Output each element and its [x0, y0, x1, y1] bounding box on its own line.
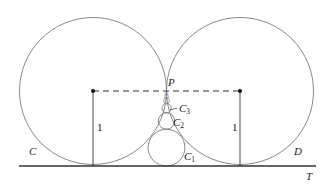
- label-radius-right: 1: [232, 121, 238, 133]
- circle-c1: [148, 129, 185, 166]
- label-t: T: [306, 170, 313, 182]
- label-c1: C1: [184, 150, 195, 164]
- label-c2: C2: [173, 116, 184, 130]
- label-p: P: [167, 76, 175, 88]
- label-radius-left: 1: [97, 121, 103, 133]
- label-c: C: [29, 145, 37, 157]
- circle-c3: [162, 104, 171, 113]
- label-d: D: [293, 145, 302, 157]
- label-c3: C3: [179, 102, 190, 116]
- tangent-circles-diagram: P 1 1 C D T C1 C2 C3: [0, 0, 325, 185]
- center-dot-left: [91, 89, 95, 93]
- center-dot-right: [238, 89, 242, 93]
